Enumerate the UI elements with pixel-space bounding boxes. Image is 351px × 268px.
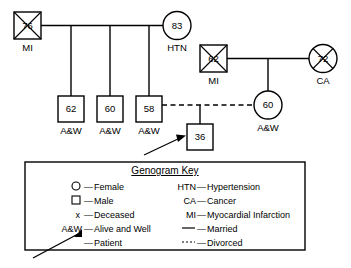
person-age: 83 [172,20,183,31]
person-age: 62 [208,53,219,64]
patient-arrow-shaft [144,138,180,155]
person-node-g2f: 72 CA [309,45,337,87]
person-age: 72 [318,53,329,64]
male-square-icon [72,196,80,204]
person-condition-label: A&W [138,125,160,136]
person-age: 60 [263,99,274,110]
person-age: 58 [144,103,155,114]
key-description: Female [94,182,124,192]
key-symbol-text: MI [186,210,196,220]
key-description: Divorced [207,238,243,248]
key-description: Patient [94,238,123,248]
person-node-patient: 36 [187,124,213,150]
key-description: Hypertension [207,182,260,192]
key-row-htn: HTN — Hypertension [178,182,261,192]
person-age: 60 [105,103,116,114]
person-age: 36 [195,131,206,142]
key-description: Myocardial Infarction [207,210,290,220]
deceased-x-icon: x [76,210,81,220]
key-dash-label: — [84,210,93,220]
key-symbol-text: HTN [178,182,197,192]
key-dash-label: — [197,210,206,220]
key-dash-label: — [197,196,206,206]
key-description: Deceased [94,210,135,220]
genogram-diagram: 76 MI 83 HTN 62 MI 72 CA 62 A&W 60 A&W [0,0,351,268]
female-circle-icon [72,182,80,190]
key-row-alive-and-well: A&W — Alive and Well [61,224,150,234]
key-row-mi: MI — Myocardial Infarction [186,210,290,220]
key-description: Married [207,224,238,234]
key-description: Alive and Well [94,224,151,234]
key-row-ca: CA — Cancer [183,196,236,206]
patient-arrow-head [176,135,186,143]
key-row-male: — Male [72,196,114,206]
key-description: Cancer [207,196,236,206]
person-node-c1: 62 A&W [58,96,84,136]
person-node-g1m: 76 MI [14,12,41,53]
key-dash-label: — [84,238,93,248]
person-condition-label: A&W [99,125,121,136]
person-age: 76 [22,20,33,31]
person-node-c4: 60 A&W [254,91,282,133]
person-condition-label: A&W [257,122,279,133]
person-condition-label: MI [22,42,33,53]
key-dash-label: — [197,182,206,192]
person-condition-label: HTN [167,42,187,53]
key-symbol-text: CA [183,196,196,206]
person-node-g1f: 83 HTN [163,12,191,54]
person-age: 62 [66,103,77,114]
genogram-key-title: Genogram Key [131,165,198,176]
person-node-g2m: 62 MI [200,45,227,86]
key-dash-label: — [84,224,93,234]
patient-arrow-icon [144,135,186,156]
person-condition-label: MI [208,75,219,86]
person-condition-label: CA [316,75,330,86]
key-dash-label: — [197,238,206,248]
person-condition-label: A&W [60,125,82,136]
key-dash-label: — [84,182,93,192]
key-dash-label: — [84,196,93,206]
key-description: Male [94,196,114,206]
person-node-c2: 60 A&W [97,96,123,136]
key-dash-label: — [197,224,206,234]
key-row-deceased: x — Deceased [76,210,135,220]
person-node-c3: 58 A&W [136,96,162,136]
